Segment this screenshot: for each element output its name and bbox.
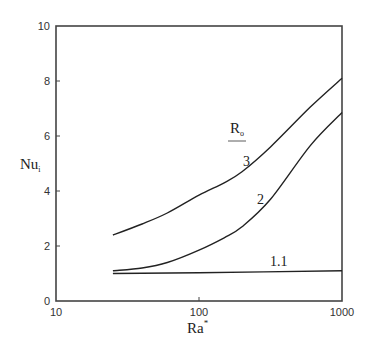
y-tick-label: 10 [38,20,50,32]
curve-label-2: 2 [257,192,264,207]
x-tick-label: 10 [50,306,62,318]
legend-title: Ro [230,120,244,138]
curve-2 [113,113,342,271]
y-tick-label: 6 [44,130,50,142]
y-axis-label: Nui [20,156,41,174]
legend-title-subscript: o [240,129,244,138]
x-axis-label: Ra* [187,318,209,336]
x-tick-label: 100 [190,306,208,318]
y-tick-label: 8 [44,75,50,87]
x-axis-ticks: 101001000 [50,297,354,318]
y-tick-label: 2 [44,240,50,252]
x-tick-label: 1000 [330,306,354,318]
chart: 0246810 101001000 Nui Ra* Ro 3 2 1.1 [0,0,368,352]
y-tick-label: 4 [44,185,50,197]
x-axis-label-superscript: * [204,318,209,328]
y-axis-label-subscript: i [38,165,41,174]
curve-1-1 [113,271,342,274]
plot-frame [56,26,342,301]
curve-label-1-1: 1.1 [270,254,288,269]
data-curves [113,78,342,273]
curve-3 [113,78,342,235]
plot-border [56,26,342,301]
curve-label-3: 3 [243,154,250,169]
